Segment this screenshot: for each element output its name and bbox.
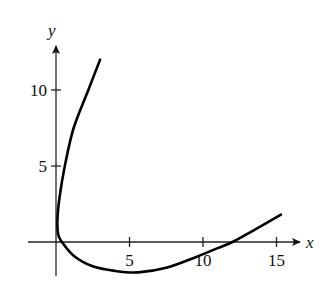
y-tick-label: 10 (30, 81, 47, 100)
x-tick-label: 15 (268, 251, 285, 270)
x-axis-label: x (305, 233, 314, 252)
x-tick-label: 5 (125, 251, 134, 270)
y-tick-label: 5 (39, 157, 48, 176)
chart: 51015 510 x y (0, 0, 330, 292)
y-axis-label: y (46, 21, 56, 40)
curve (57, 60, 281, 273)
